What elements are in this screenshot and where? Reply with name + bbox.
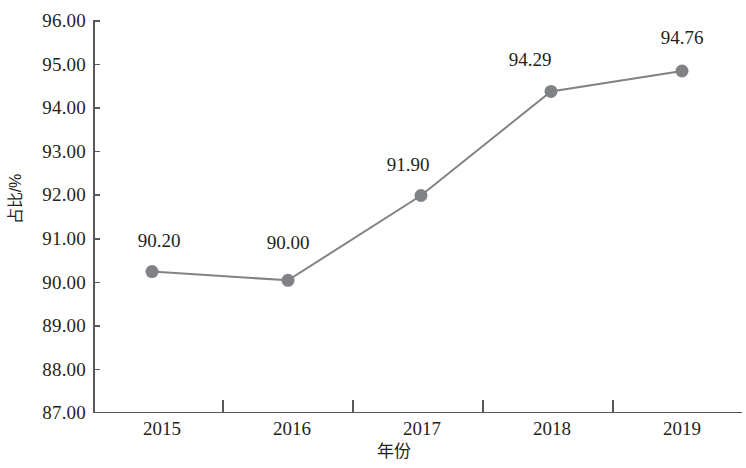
data-point xyxy=(415,189,428,202)
data-point-label: 91.90 xyxy=(348,155,468,175)
data-point-label: 90.00 xyxy=(228,233,348,253)
data-point xyxy=(545,85,558,98)
x-tick-label: 2019 xyxy=(622,418,742,440)
y-axis-title: 占比/% xyxy=(7,139,25,259)
data-point xyxy=(146,265,159,278)
data-point-label: 94.76 xyxy=(622,28,742,48)
x-axis-title: 年份 xyxy=(0,440,746,463)
data-point xyxy=(676,65,689,78)
x-tick-label: 2018 xyxy=(492,418,612,440)
x-tick-label: 2016 xyxy=(232,418,352,440)
data-point-label: 94.29 xyxy=(470,50,590,70)
x-tick-label: 2015 xyxy=(102,418,222,440)
x-tick-label: 2017 xyxy=(362,418,482,440)
x-axis-title-text: 年份 xyxy=(377,441,411,463)
data-point xyxy=(282,274,295,287)
data-point-label: 90.20 xyxy=(99,231,219,251)
line-chart: 96.00 95.00 94.00 93.00 92.00 91.00 90.0… xyxy=(0,0,746,468)
